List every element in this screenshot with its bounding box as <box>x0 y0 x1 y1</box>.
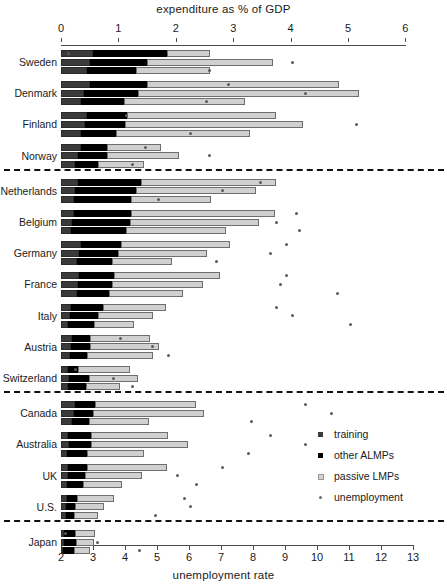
legend-swatch-training <box>318 432 323 437</box>
bar-segment-training <box>61 187 75 194</box>
bar-segment-other-almps <box>67 481 83 488</box>
bar-segment-other-almps <box>75 161 98 168</box>
bar-segment-passive-lmps <box>131 196 211 203</box>
bar-segment-training <box>61 98 81 105</box>
bar-segment-training <box>61 67 87 74</box>
bar-segment-passive-lmps <box>78 366 130 373</box>
bar-row <box>0 219 447 226</box>
bar-segment-other-almps <box>81 98 124 105</box>
bar-row <box>0 130 447 137</box>
bar-segment-training <box>61 410 74 417</box>
bar-segment-other-almps <box>70 352 87 359</box>
bar-segment-passive-lmps <box>86 383 120 390</box>
bar-row <box>0 241 447 248</box>
bar-segment-passive-lmps <box>74 547 90 554</box>
bar-segment-training <box>61 210 74 217</box>
bar-segment-other-almps <box>68 321 94 328</box>
bar-row <box>0 161 447 168</box>
unemployment-marker <box>189 132 192 135</box>
bar-row <box>0 144 447 151</box>
bar-row <box>0 343 447 350</box>
bar-row <box>0 375 447 382</box>
legend-label: unemployment <box>334 487 403 508</box>
bar-segment-training <box>61 152 78 159</box>
top-tick-label: 1 <box>106 22 130 34</box>
bar-segment-other-almps <box>71 343 89 350</box>
bar-row <box>0 121 447 128</box>
bar-segment-training <box>61 121 85 128</box>
bar-segment-other-almps <box>74 410 92 417</box>
top-axis-title: expenditure as % of GDP <box>0 3 447 15</box>
bar-segment-passive-lmps <box>126 227 226 234</box>
bar-segment-passive-lmps <box>87 352 153 359</box>
unemployment-marker <box>298 229 301 232</box>
bar-segment-other-almps <box>90 59 147 66</box>
bar-row <box>0 290 447 297</box>
bar-row <box>0 352 447 359</box>
bar-segment-passive-lmps <box>109 290 184 297</box>
legend-swatch-other-almps <box>318 453 323 458</box>
bar-segment-other-almps <box>68 383 85 390</box>
bar-segment-other-almps <box>74 196 131 203</box>
bar-segment-passive-lmps <box>167 50 210 57</box>
bar-segment-training <box>61 90 84 97</box>
unemployment-marker <box>154 514 157 517</box>
bar-segment-passive-lmps <box>127 112 276 119</box>
unemployment-marker <box>96 541 99 544</box>
bar-segment-other-almps <box>81 144 107 151</box>
bar-row <box>0 272 447 279</box>
unemployment-marker <box>74 368 77 371</box>
bar-segment-other-almps <box>71 304 103 311</box>
bar-segment-training <box>61 144 81 151</box>
bar-segment-other-almps <box>66 512 75 519</box>
bar-segment-training <box>61 241 81 248</box>
bar-row <box>0 90 447 97</box>
bar-segment-passive-lmps <box>75 503 104 510</box>
unemployment-marker <box>330 412 333 415</box>
top-tick <box>118 38 119 42</box>
bar-segment-training <box>61 227 71 234</box>
bar-segment-other-almps <box>72 219 129 226</box>
bar-segment-passive-lmps <box>125 121 303 128</box>
unemployment-marker <box>349 323 352 326</box>
bar-row <box>0 321 447 328</box>
bar-segment-passive-lmps <box>91 441 189 448</box>
unemployment-marker <box>247 452 250 455</box>
top-tick <box>233 38 234 42</box>
bar-segment-training <box>61 383 68 390</box>
bar-row <box>0 401 447 408</box>
bar-segment-training <box>61 401 75 408</box>
bar-row <box>0 366 447 373</box>
top-tick <box>348 38 349 42</box>
bar-segment-passive-lmps <box>112 281 204 288</box>
bar-segment-passive-lmps <box>112 258 172 265</box>
bar-segment-passive-lmps <box>147 81 339 88</box>
bar-segment-other-almps <box>70 312 99 319</box>
legend-swatch-unemployment <box>319 496 322 499</box>
bar-segment-other-almps <box>72 418 88 425</box>
bar-row <box>0 512 447 519</box>
bar-segment-other-almps <box>72 335 89 342</box>
bar-segment-training <box>61 304 71 311</box>
bar-segment-other-almps <box>75 187 135 194</box>
bar-segment-passive-lmps <box>98 312 153 319</box>
bar-segment-other-almps <box>68 464 86 471</box>
bar-segment-passive-lmps <box>83 481 122 488</box>
bar-row <box>0 312 447 319</box>
bar-segment-passive-lmps <box>93 410 205 417</box>
bar-row <box>0 547 447 554</box>
bar-row <box>0 227 447 234</box>
bar-segment-passive-lmps <box>103 304 166 311</box>
bar-segment-training <box>61 281 78 288</box>
bar-segment-training <box>61 375 69 382</box>
unemployment-marker <box>295 212 298 215</box>
bottom-axis-title: unemployment rate <box>0 569 447 581</box>
bar-row <box>0 250 447 257</box>
bar-segment-training <box>61 112 87 119</box>
bar-segment-training <box>61 196 74 203</box>
bar-row <box>0 304 447 311</box>
unemployment-marker <box>304 92 307 95</box>
bar-row <box>0 112 447 119</box>
bar-segment-passive-lmps <box>114 272 220 279</box>
legend-label: other ALMPs <box>334 445 394 466</box>
